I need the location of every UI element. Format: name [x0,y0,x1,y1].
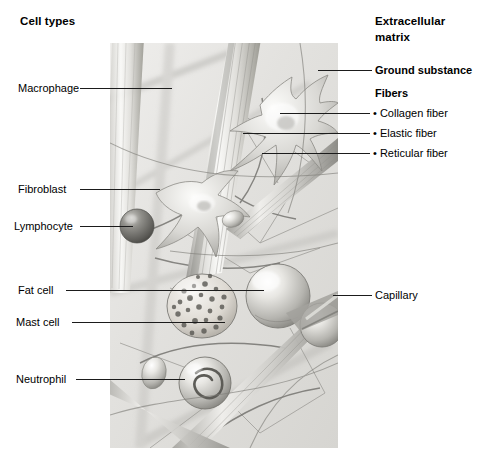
left-column-heading: Cell types [20,14,75,29]
leader-fibroblast [80,189,160,190]
label-ground-substance: Ground substance [375,64,472,76]
label-macrophage: Macrophage [18,82,79,94]
text-elastic-fiber: Elastic fiber [380,127,437,139]
label-lymphocyte: Lymphocyte [14,220,73,232]
leader-mast-cell [72,322,225,323]
right-column-heading-line2: matrix [375,30,410,45]
tissue-artwork [110,43,338,448]
text-reticular-fiber: Reticular fiber [380,147,448,159]
leader-fat-cell [66,290,264,291]
right-column-heading-line1: Extracellular [375,14,445,29]
label-capillary: Capillary [375,289,418,301]
leader-macrophage [80,88,172,89]
label-fibroblast: Fibroblast [18,183,66,195]
fibroblast-nucleus [197,201,211,211]
leader-capillary [333,295,372,296]
text-collagen-fiber: Collagen fiber [380,107,448,119]
leader-reticular-fiber [262,153,370,154]
macrophage-nucleus [277,116,295,130]
label-neutrophil: Neutrophil [16,373,66,385]
leader-lymphocyte [80,226,133,227]
leader-ground-substance [318,70,372,71]
bullet-collagen-fiber: • [373,107,377,119]
leader-elastic-fiber [243,133,370,134]
leader-neutrophil [76,379,185,380]
connective-tissue-illustration [110,43,338,448]
label-mast-cell: Mast cell [16,316,59,328]
label-fat-cell: Fat cell [18,284,53,296]
neutrophil-cell [179,357,231,409]
label-collagen-fiber: • Collagen fiber [373,107,448,119]
label-reticular-fiber: • Reticular fiber [373,147,448,159]
figure-canvas: Cell types Extracellular matrix [0,0,481,466]
bullet-elastic-fiber: • [373,127,377,139]
leader-collagen-fiber [280,113,370,114]
label-elastic-fiber: • Elastic fiber [373,127,437,139]
bullet-reticular-fiber: • [373,147,377,159]
fibers-subheading: Fibers [375,87,408,99]
mast-cell [167,274,237,338]
